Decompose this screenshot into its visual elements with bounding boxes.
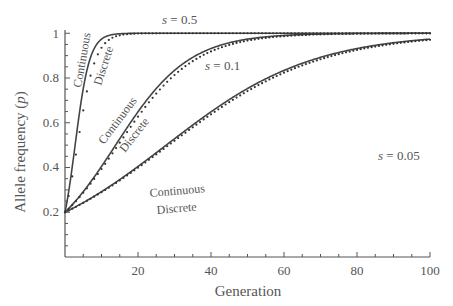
discrete-point — [385, 32, 387, 34]
discrete-point — [290, 35, 292, 37]
discrete-point — [257, 84, 259, 86]
discrete-point — [414, 40, 416, 42]
discrete-point — [316, 59, 318, 61]
discrete-point — [75, 154, 77, 156]
y-tick-labels: 0.2 0.4 0.6 0.8 1 — [43, 26, 60, 219]
discrete-point — [144, 161, 146, 163]
discrete-point — [192, 126, 194, 128]
discrete-point — [294, 67, 296, 69]
discrete-point — [188, 62, 190, 64]
x-tick-label: 40 — [205, 263, 218, 278]
discrete-point — [144, 32, 146, 34]
discrete-point — [228, 101, 230, 103]
y-tick-label: 0.6 — [43, 115, 60, 130]
discrete-point — [246, 90, 248, 92]
discrete-point — [181, 134, 183, 136]
discrete-point — [352, 33, 354, 35]
discrete-point — [254, 38, 256, 40]
discrete-point — [327, 56, 329, 58]
discrete-point — [199, 121, 201, 123]
discrete-point — [199, 56, 201, 58]
discrete-point — [338, 33, 340, 35]
discrete-point — [206, 32, 208, 34]
allele-frequency-chart: 0.2 0.4 0.6 0.8 1 20 40 60 80 100 Genera… — [0, 0, 453, 306]
discrete-point — [283, 35, 285, 37]
discrete-point — [287, 70, 289, 72]
discrete-point — [349, 50, 351, 52]
discrete-point — [108, 187, 110, 189]
discrete-point — [184, 32, 186, 34]
discrete-point — [301, 34, 303, 36]
discrete-point — [192, 60, 194, 62]
discrete-point — [235, 32, 237, 34]
discrete-point — [283, 32, 285, 34]
discrete-point — [188, 129, 190, 131]
discrete-point — [378, 32, 380, 34]
discrete-point — [330, 55, 332, 57]
discrete-point — [319, 33, 321, 35]
discrete-point — [93, 196, 95, 198]
discrete-point — [232, 43, 234, 45]
discrete-point — [305, 34, 307, 36]
discrete-point — [400, 42, 402, 44]
discrete-point — [144, 106, 146, 108]
discrete-point — [254, 86, 256, 88]
discrete-point — [301, 64, 303, 66]
discrete-point — [308, 34, 310, 36]
discrete-point — [381, 44, 383, 46]
discrete-point — [86, 90, 88, 92]
discrete-point — [250, 32, 252, 34]
discrete-point — [429, 32, 431, 34]
discrete-point — [239, 41, 241, 43]
discrete-point — [137, 167, 139, 169]
discrete-point — [327, 33, 329, 35]
discrete-point — [177, 71, 179, 73]
discrete-point — [159, 32, 161, 34]
discrete-point — [195, 124, 197, 126]
discrete-point — [429, 39, 431, 41]
discrete-point — [250, 88, 252, 90]
discrete-point — [141, 164, 143, 166]
discrete-point — [166, 32, 168, 34]
discrete-point — [133, 33, 135, 35]
discrete-point — [68, 209, 70, 211]
discrete-point — [312, 60, 314, 62]
discrete-point — [162, 84, 164, 86]
discrete-point — [261, 82, 263, 84]
discrete-point — [389, 43, 391, 45]
discrete-point — [206, 116, 208, 118]
discrete-point — [272, 77, 274, 79]
discrete-point — [276, 75, 278, 77]
discrete-point — [82, 192, 84, 194]
discrete-point — [371, 46, 373, 48]
discrete-point — [396, 32, 398, 34]
discrete-point — [294, 32, 296, 34]
discrete-point — [133, 169, 135, 171]
discrete-point — [239, 94, 241, 96]
discrete-point — [250, 39, 252, 41]
y-axis-title-end: ) — [12, 91, 29, 96]
discrete-point — [195, 58, 197, 60]
discrete-point — [93, 62, 95, 64]
discrete-point — [203, 54, 205, 56]
discrete-point — [225, 45, 227, 47]
discrete-point — [371, 32, 373, 34]
discrete-point — [166, 81, 168, 83]
discrete-point — [155, 153, 157, 155]
discrete-point — [279, 32, 281, 34]
discrete-point — [403, 41, 405, 43]
discrete-point — [195, 32, 197, 34]
discrete-point — [334, 33, 336, 35]
discrete-point — [389, 32, 391, 34]
discrete-point — [184, 132, 186, 134]
discrete-point — [279, 35, 281, 37]
discrete-point — [166, 145, 168, 147]
discrete-point — [159, 151, 161, 153]
discrete-point — [79, 204, 81, 206]
discrete-point — [294, 34, 296, 36]
discrete-point — [225, 103, 227, 105]
discrete-point — [418, 40, 420, 42]
discrete-point — [360, 33, 362, 35]
discrete-point — [68, 195, 70, 197]
discrete-point — [111, 184, 113, 186]
